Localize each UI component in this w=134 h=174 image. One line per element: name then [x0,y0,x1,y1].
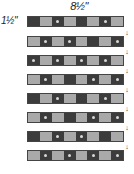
dark-square [52,132,64,141]
down-arrow-icon: ↓ [124,29,130,36]
dark-square [99,94,111,103]
star-motif-icon [56,135,59,138]
dark-square [76,132,88,141]
light-square [76,113,88,122]
dark-square [28,94,40,103]
star-motif-icon [44,78,47,81]
light-square [111,94,123,103]
dark-square [40,113,52,122]
dark-square [40,75,52,84]
star-motif-icon [44,154,47,157]
light-square [28,151,40,160]
light-square [64,94,76,103]
light-square [28,75,40,84]
down-arrow-icon: ↓ [124,143,130,150]
dark-square [40,37,52,46]
star-motif-icon [56,59,59,62]
light-square [52,37,64,46]
light-square [64,132,76,141]
star-motif-icon [80,59,83,62]
star-motif-icon [56,20,59,23]
star-motif-icon [116,78,119,81]
light-square [99,75,111,84]
light-square [111,132,123,141]
light-square [87,94,99,103]
dark-square [87,37,99,46]
dark-square [76,56,88,65]
light-square [52,151,64,160]
light-square [28,37,40,46]
down-arrow-icon: ↓ [124,124,130,131]
light-square [64,56,76,65]
star-motif-icon [92,116,95,119]
fabric-strip-4 [27,74,124,85]
light-square [99,113,111,122]
dark-square [99,132,111,141]
star-motif-icon [116,40,119,43]
width-dimension-label: 8½" [54,0,104,12]
dark-square [111,113,123,122]
light-square [52,113,64,122]
light-square [64,17,76,26]
light-square [40,94,52,103]
dark-square [64,151,76,160]
dark-square [52,17,64,26]
dark-square [64,75,76,84]
light-square [99,37,111,46]
fabric-strip-8 [27,150,124,161]
dark-square [111,37,123,46]
star-motif-icon [92,78,95,81]
dark-square [111,75,123,84]
light-square [40,17,52,26]
star-motif-icon [116,116,119,119]
star-motif-icon [104,59,107,62]
star-motif-icon [44,116,47,119]
dark-square [64,37,76,46]
light-square [87,17,99,26]
dark-square [87,151,99,160]
dark-square [64,113,76,122]
dark-square [76,94,88,103]
dark-square [28,132,40,141]
fabric-strip-3 [27,55,124,66]
down-arrow-icon: ↓ [124,48,130,55]
down-arrow-icon: ↓ [124,86,130,93]
light-square [52,75,64,84]
star-motif-icon [80,135,83,138]
light-square [76,37,88,46]
dark-square [52,94,64,103]
down-arrow-icon: ↓ [124,105,130,112]
fabric-strip-2 [27,36,124,47]
star-motif-icon [116,154,119,157]
dark-square [87,113,99,122]
light-square [76,75,88,84]
height-dimension-label: 1½" [1,15,17,26]
light-square [87,132,99,141]
star-motif-icon [104,20,107,23]
dark-square [87,75,99,84]
light-square [111,17,123,26]
dark-square [28,17,40,26]
light-square [40,56,52,65]
fabric-strip-6 [27,112,124,123]
star-motif-icon [92,154,95,157]
fabric-strip-5 [27,93,124,104]
light-square [76,151,88,160]
light-square [87,56,99,65]
dark-square [99,56,111,65]
light-square [40,132,52,141]
star-motif-icon [104,97,107,100]
star-motif-icon [56,97,59,100]
star-motif-icon [68,154,71,157]
star-motif-icon [32,59,35,62]
dark-square [99,17,111,26]
dark-square [40,151,52,160]
down-arrow-icon: ↓ [124,67,130,74]
star-motif-icon [44,40,47,43]
light-square [111,56,123,65]
fabric-strip-7 [27,131,124,142]
light-square [28,113,40,122]
dark-square [111,151,123,160]
dark-square [76,17,88,26]
dark-square [52,56,64,65]
